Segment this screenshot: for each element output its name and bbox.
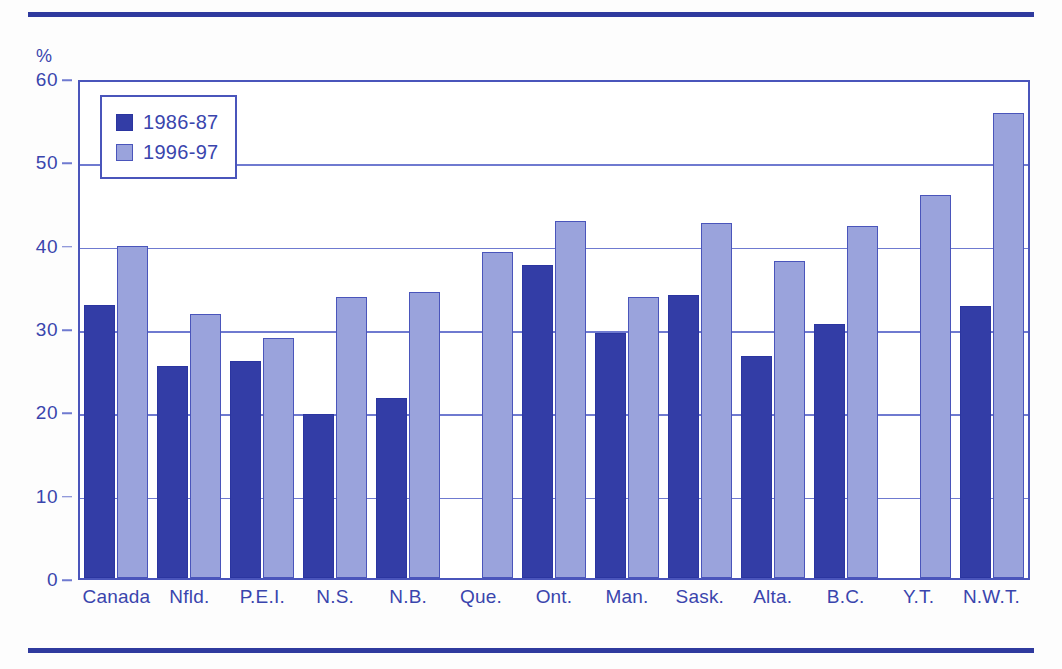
bar-group	[518, 82, 591, 578]
bottom-divider-rule	[28, 648, 1034, 653]
y-axis-tick-mark	[62, 496, 72, 498]
y-axis-tick-label: 30	[36, 319, 58, 341]
bar-group	[372, 82, 445, 578]
y-axis-tick-mark	[62, 579, 72, 581]
x-axis-tick-label: Que.	[445, 586, 518, 608]
bar[interactable]	[993, 113, 1024, 578]
bar[interactable]	[482, 252, 513, 578]
y-axis-tick-label: 10	[36, 486, 58, 508]
y-axis-tick-mark	[62, 413, 72, 415]
y-axis-unit-label: %	[36, 46, 52, 67]
y-axis-tick-label: 20	[36, 402, 58, 424]
bar[interactable]	[84, 305, 115, 578]
bar[interactable]	[376, 398, 407, 578]
bar[interactable]	[522, 265, 553, 578]
bar[interactable]	[303, 414, 334, 578]
bar[interactable]	[263, 338, 294, 578]
bar[interactable]	[920, 195, 951, 578]
bar-group	[299, 82, 372, 578]
x-axis-tick-label: Nfld.	[153, 586, 226, 608]
x-axis-tick-label: N.W.T.	[955, 586, 1028, 608]
bar-group	[955, 82, 1028, 578]
bar[interactable]	[190, 314, 221, 578]
y-axis-tick-label: 50	[36, 152, 58, 174]
top-divider-rule	[28, 12, 1034, 17]
x-axis: CanadaNfld.P.E.I.N.S.N.B.Que.Ont.Man.Sas…	[80, 586, 1028, 608]
bar[interactable]	[774, 261, 805, 579]
bar[interactable]	[157, 366, 188, 579]
legend-swatch-1996-97-icon	[116, 144, 133, 161]
legend-item[interactable]: 1986-87	[116, 107, 219, 137]
y-axis-tick-mark	[62, 329, 72, 331]
bar-group	[736, 82, 809, 578]
bar[interactable]	[741, 356, 772, 578]
x-axis-tick-label: Ont.	[518, 586, 591, 608]
x-axis-tick-label: Canada	[80, 586, 153, 608]
bar-group	[226, 82, 299, 578]
legend-label: 1996-97	[143, 141, 219, 164]
bar-group	[663, 82, 736, 578]
x-axis-tick-label: Sask.	[663, 586, 736, 608]
bar[interactable]	[701, 223, 732, 578]
x-axis-tick-label: Man.	[590, 586, 663, 608]
legend-item[interactable]: 1996-97	[116, 137, 219, 167]
y-axis-tick-label: 40	[36, 236, 58, 258]
legend-swatch-1986-87-icon	[116, 114, 133, 131]
bar[interactable]	[628, 297, 659, 578]
y-axis-tick-mark	[62, 246, 72, 248]
chart-legend: 1986-87 1996-97	[100, 95, 237, 179]
bar-group	[445, 82, 518, 578]
x-axis-tick-label: P.E.I.	[226, 586, 299, 608]
bar[interactable]	[409, 292, 440, 578]
y-axis: 6050403020100	[0, 80, 72, 580]
bar[interactable]	[847, 226, 878, 578]
y-axis-tick-label: 60	[36, 69, 58, 91]
bar[interactable]	[595, 333, 626, 578]
x-axis-tick-label: N.B.	[372, 586, 445, 608]
bar[interactable]	[230, 361, 261, 578]
legend-label: 1986-87	[143, 111, 219, 134]
y-axis-tick-mark	[62, 79, 72, 81]
y-axis-tick-label: 0	[47, 569, 58, 591]
bar-group	[590, 82, 663, 578]
x-axis-tick-label: B.C.	[809, 586, 882, 608]
bar-group	[809, 82, 882, 578]
bar[interactable]	[668, 295, 699, 578]
bar[interactable]	[814, 324, 845, 578]
chart-page: % 6050403020100 CanadaNfld.P.E.I.N.S.N.B…	[0, 0, 1062, 669]
x-axis-tick-label: Y.T.	[882, 586, 955, 608]
x-axis-tick-label: Alta.	[736, 586, 809, 608]
x-axis-tick-label: N.S.	[299, 586, 372, 608]
bar[interactable]	[555, 221, 586, 579]
bar[interactable]	[336, 297, 367, 578]
bar-group	[882, 82, 955, 578]
bar[interactable]	[960, 306, 991, 579]
y-axis-tick-mark	[62, 163, 72, 165]
bar[interactable]	[117, 246, 148, 578]
